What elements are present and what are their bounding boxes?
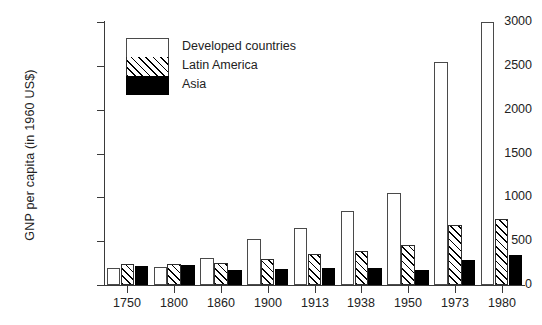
y-tick-mark xyxy=(97,154,105,155)
bar-asia-1860 xyxy=(228,270,241,285)
y-tick-mark xyxy=(97,241,105,242)
y-tick-mark xyxy=(97,110,105,111)
legend-swatch-developed-countries xyxy=(126,38,169,57)
x-tick-mark xyxy=(361,286,362,293)
bar-asia-1980 xyxy=(509,255,522,285)
bar-developed-1860 xyxy=(200,258,213,285)
bar-latin-1900 xyxy=(261,259,274,285)
x-tick-mark xyxy=(315,286,316,293)
bar-developed-1800 xyxy=(154,267,167,285)
bar-latin-1980 xyxy=(495,219,508,285)
bar-developed-1938 xyxy=(341,211,354,285)
bar-latin-1750 xyxy=(121,264,134,285)
x-tick-mark xyxy=(455,286,456,293)
y-tick-label: 3000 xyxy=(456,14,542,28)
x-tick-mark xyxy=(174,286,175,293)
bar-developed-1980 xyxy=(481,22,494,285)
y-tick-mark xyxy=(97,285,105,286)
bar-asia-1973 xyxy=(462,260,475,285)
bar-asia-1900 xyxy=(275,269,288,285)
bar-latin-1800 xyxy=(167,264,180,285)
x-tick-mark xyxy=(268,286,269,293)
y-axis-title: GNP per capita (in 1960 US$) xyxy=(23,39,37,271)
y-tick-mark xyxy=(97,197,105,198)
bar-developed-1973 xyxy=(434,62,447,285)
y-tick-label: 2000 xyxy=(456,102,542,116)
y-tick-label: 1000 xyxy=(456,189,542,203)
legend-swatch-asia xyxy=(126,76,169,95)
bar-developed-1900 xyxy=(247,239,260,285)
bar-latin-1913 xyxy=(308,254,321,285)
y-tick-label: 1500 xyxy=(456,146,542,160)
bar-asia-1950 xyxy=(415,270,428,285)
bar-developed-1750 xyxy=(107,268,120,285)
bar-asia-1938 xyxy=(368,268,381,285)
x-tick-mark xyxy=(408,286,409,293)
bar-developed-1913 xyxy=(294,228,307,285)
x-tick-label: 1980 xyxy=(467,296,537,310)
bar-asia-1913 xyxy=(322,268,335,285)
bar-latin-1973 xyxy=(448,225,461,285)
x-tick-mark xyxy=(127,286,128,293)
y-tick-label: 2500 xyxy=(456,58,542,72)
bar-latin-1950 xyxy=(401,245,414,285)
x-tick-mark xyxy=(221,286,222,293)
y-tick-mark xyxy=(97,66,105,67)
legend-swatch-latin-america xyxy=(126,57,169,76)
bar-developed-1950 xyxy=(387,193,400,285)
y-tick-mark xyxy=(97,22,105,23)
legend-label-developed-countries: Developed countries xyxy=(182,39,296,53)
legend-label-asia: Asia xyxy=(182,77,206,91)
gnp-per-capita-bar-chart: GNP per capita (in 1960 US$) 05001000150… xyxy=(0,0,542,325)
x-tick-mark xyxy=(502,286,503,293)
bar-latin-1860 xyxy=(214,263,227,285)
legend-label-latin-america: Latin America xyxy=(182,58,258,72)
bar-asia-1750 xyxy=(135,266,148,285)
bar-asia-1800 xyxy=(181,265,194,285)
bar-latin-1938 xyxy=(355,251,368,285)
